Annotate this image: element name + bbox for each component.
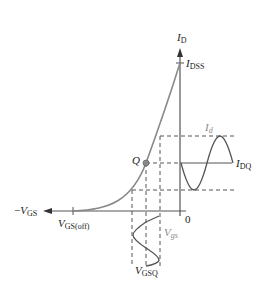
- neg-vgs-label: −VGS: [14, 205, 37, 218]
- idss-label-sub: DSS: [190, 62, 205, 71]
- vgs-off-sub: GS(off): [65, 222, 90, 231]
- idq-label-sub: DQ: [240, 162, 252, 171]
- zero-label: 0: [185, 214, 191, 225]
- id-axis-label: ID: [177, 32, 186, 45]
- q-point-label: Q: [132, 155, 140, 166]
- neg-vgs-main: V: [20, 204, 27, 216]
- q-point-label-text: Q: [132, 154, 140, 166]
- vgs-signal-sub: gs: [171, 231, 178, 240]
- transfer-curve: [73, 63, 180, 211]
- vgs-off-main: V: [58, 217, 65, 229]
- vgsq-sub: GSQ: [142, 269, 158, 278]
- transfer-characteristic-diagram: [0, 0, 268, 283]
- idss-label: IDSS: [186, 58, 204, 71]
- neg-vgs-sub: GS: [27, 209, 37, 218]
- vgs-off-label: VGS(off): [58, 218, 89, 231]
- vgsq-label: VGSQ: [135, 265, 158, 278]
- id-signal-label-sub: d: [209, 126, 213, 135]
- vgs-signal-main: V: [164, 226, 171, 238]
- id-axis-arrow-icon: [177, 48, 183, 57]
- id-signal-label: Id: [205, 122, 213, 135]
- id-axis-label-sub: D: [181, 36, 187, 45]
- vgs-signal-label: Vgs: [164, 227, 178, 240]
- q-point-marker: [143, 160, 149, 166]
- zero-label-text: 0: [185, 213, 191, 225]
- idq-label: IDQ: [236, 158, 251, 171]
- vgs-signal-top: [146, 216, 159, 222]
- vgs-axis-arrow-icon: [43, 208, 52, 214]
- vgsq-main: V: [135, 264, 142, 276]
